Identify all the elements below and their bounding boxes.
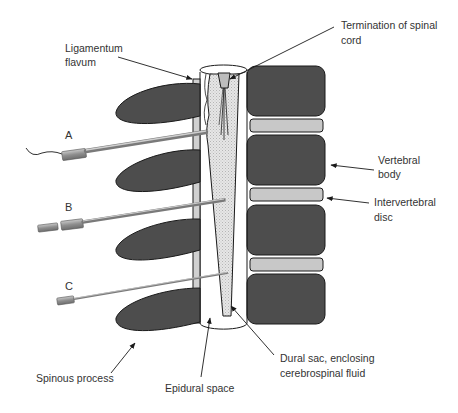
vertebral-column [247,66,325,324]
svg-text:flavum: flavum [65,56,96,68]
svg-text:Dural sac, enclosing: Dural sac, enclosing [280,352,375,364]
needle-a-shaft [86,132,206,151]
label-ligamentum-flavum: Ligamentum flavum [65,42,192,79]
svg-text:Vertebral: Vertebral [378,154,420,166]
svg-text:Ligamentum: Ligamentum [65,42,123,54]
needle-c-label: C [65,280,73,292]
svg-text:Spinous process: Spinous process [36,372,114,384]
spinous-process-2 [116,150,200,192]
spinous-process-3 [116,219,200,260]
needle-b-label: B [65,201,72,213]
vertebral-body-2 [247,135,325,185]
needle-a-label: A [65,129,73,141]
intervertebral-disc-3 [250,258,323,271]
needle-c-hub [57,296,75,305]
needle-b-hub [61,219,84,231]
svg-text:cord: cord [341,34,362,46]
intervertebral-disc-1 [250,119,323,132]
vertebral-body-1 [247,66,325,116]
svg-text:Intervertebral: Intervertebral [374,196,436,208]
label-intervertebral-disc: Intervertebral disc [327,196,436,223]
svg-text:body: body [378,168,402,180]
vertebral-body-4 [247,274,325,324]
dural-sac-wavy-edge [204,74,207,125]
needle-b-stylet-cap [38,223,59,232]
svg-text:Epidural space: Epidural space [165,382,235,394]
svg-text:cerebrospinal fluid: cerebrospinal fluid [280,367,365,379]
vertebral-body-3 [247,205,325,255]
spinous-process-4 [116,288,200,331]
needle-b-shaft [83,200,224,222]
spinous-process-1 [116,83,200,123]
label-spinous-process: Spinous process [36,343,135,384]
needle-c-shaft [74,273,227,299]
intervertebral-disc-2 [250,188,323,201]
svg-text:disc: disc [374,211,393,223]
needle-a-hub [62,148,87,160]
svg-text:Termination of spinal: Termination of spinal [341,19,437,31]
label-vertebral-body: Vertebral body [331,154,420,180]
spine-diagram: A B C Ligamentum flavum Termination of s… [0,0,458,413]
catheter-tail [26,148,62,155]
